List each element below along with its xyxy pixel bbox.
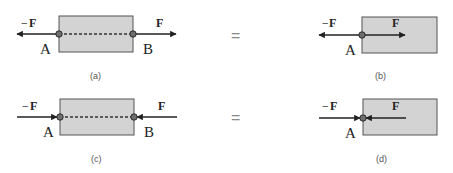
equals-sign-bottom: = [231,109,240,126]
neg-force-label: F [330,99,337,113]
equals-sign-top: = [231,27,240,44]
point-a-dot [359,32,365,38]
neg-sign: − [22,100,28,112]
panel-d: − F F A (d) [319,99,437,164]
point-a-label: A [345,125,356,141]
panel-c: − F F A B (c) [17,99,177,164]
force-label: F [158,99,165,113]
point-b-label: B [144,124,154,140]
point-a-dot [57,114,63,120]
point-b-dot [130,31,136,37]
neg-force-label: F [30,99,37,113]
force-label: F [392,99,399,113]
point-a-label: A [43,124,54,140]
rigid-block [363,99,437,135]
neg-sign: − [21,17,27,29]
panel-b: − F F A (b) [319,16,437,81]
point-a-dot [360,115,366,121]
point-a-label: A [345,42,356,58]
force-equivalence-diagram: − F F A B (a) = − F F A (b) − F F A B (c… [0,0,453,173]
neg-force-label: F [329,16,336,30]
point-b-dot [131,114,137,120]
point-a-dot [56,31,62,37]
panel-a: − F F A B (a) [17,16,176,81]
caption-d: (d) [376,154,387,164]
caption-a: (a) [90,71,101,81]
force-label: F [156,16,163,30]
neg-sign: − [322,100,328,112]
caption-c: (c) [91,154,102,164]
neg-force-label: F [29,16,36,30]
point-b-label: B [143,41,153,57]
force-label: F [392,16,399,30]
point-a-label: A [40,41,51,57]
caption-b: (b) [375,71,386,81]
neg-sign: − [322,17,328,29]
